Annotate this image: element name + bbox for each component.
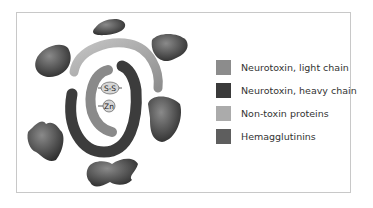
legend-label: Neurotoxin, light chain (241, 62, 349, 73)
legend-swatch (216, 60, 231, 75)
legend-label: Neurotoxin, heavy chain (241, 85, 357, 96)
legend-item-heavy-chain: Neurotoxin, heavy chain (216, 79, 357, 102)
hemagglutinin-bottom-left (27, 122, 63, 162)
legend-swatch (216, 106, 231, 121)
hemagglutinin-left (35, 45, 70, 77)
hemagglutinin-bottom (87, 159, 138, 187)
non-toxin-protein (74, 43, 158, 88)
legend-swatch (216, 129, 231, 144)
legend-swatch (216, 83, 231, 98)
disulfide-label: S-S (104, 84, 116, 93)
hemagglutinin-top (93, 19, 125, 35)
hemagglutinin-right (148, 97, 181, 143)
legend-label: Hemagglutinins (241, 131, 316, 142)
legend-item-non-toxin: Non-toxin proteins (216, 102, 357, 125)
legend-label: Non-toxin proteins (241, 108, 329, 119)
legend-item-hemagglutinins: Hemagglutinins (216, 125, 357, 148)
zinc-label: Zn (104, 102, 114, 111)
legend-item-light-chain: Neurotoxin, light chain (216, 56, 357, 79)
hemagglutinin-top-right (152, 34, 188, 61)
legend: Neurotoxin, light chain Neurotoxin, heav… (216, 56, 357, 148)
